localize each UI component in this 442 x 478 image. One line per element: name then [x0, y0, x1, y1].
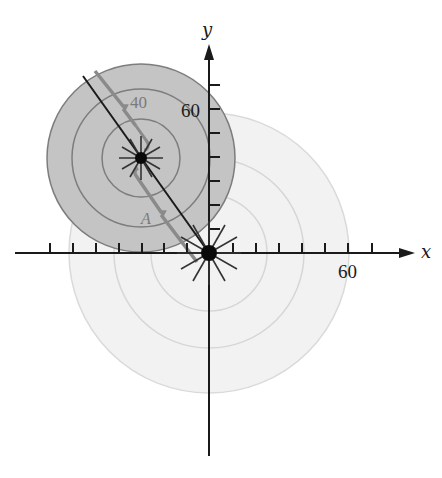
- moving-source-dot: [135, 152, 147, 164]
- y-tick-label-60: 60: [181, 100, 200, 121]
- point-label-a: A: [140, 210, 151, 227]
- y-axis-label: y: [201, 19, 213, 40]
- doppler-diagram: y x 60 60 40 A: [0, 0, 442, 478]
- x-tick-label-60: 60: [338, 261, 357, 282]
- x-axis-label: x: [421, 241, 431, 262]
- ring-label-40: 40: [130, 93, 147, 112]
- diagram-canvas: y x 60 60 40 A: [0, 0, 442, 478]
- x-axis-arrow-icon: [399, 248, 415, 258]
- y-axis-arrow-icon: [204, 44, 214, 60]
- origin-source-dot: [201, 245, 217, 261]
